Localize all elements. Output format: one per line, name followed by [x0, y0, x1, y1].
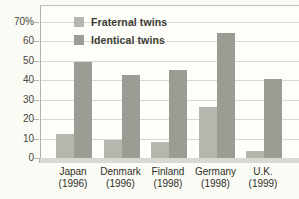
y-tick-mark-0: [34, 158, 39, 159]
y-tick-label-10: 10: [0, 133, 34, 145]
y-tick-mark-20: [34, 119, 39, 120]
y-tick-mark-40: [34, 80, 39, 81]
y-tick-label-30: 30: [0, 94, 34, 106]
legend-label-identical: Identical twins: [91, 34, 165, 46]
y-tick-mark-70: [34, 22, 39, 23]
y-tick-mark-10: [34, 139, 39, 140]
bar-germany-fraternal: [199, 107, 217, 162]
y-tick-label-50: 50: [0, 55, 34, 67]
y-tick-label-20: 20: [0, 113, 34, 125]
bar-japan-identical: [74, 62, 92, 162]
y-axis-line: [39, 158, 40, 163]
fraternal-twins-swatch: [74, 17, 84, 27]
x-label-uk: U.K.(1999): [231, 166, 295, 190]
legend-item-identical: Identical twins: [74, 32, 167, 48]
legend: Fraternal twins Identical twins: [74, 14, 167, 50]
bar-germany-identical: [217, 33, 235, 162]
bar-finland-identical: [169, 70, 187, 162]
y-tick-mark-30: [34, 100, 39, 101]
bar-denmark-identical: [122, 75, 140, 162]
x-label-country: U.K.: [231, 166, 295, 178]
twins-bar-chart: 010203040506070% Fraternal twins Identic…: [0, 0, 299, 199]
legend-label-fraternal: Fraternal twins: [91, 16, 167, 28]
y-tick-mark-60: [34, 41, 39, 42]
y-tick-label-40: 40: [0, 74, 34, 86]
x-axis-baseline: [40, 158, 299, 163]
y-tick-mark-50: [34, 61, 39, 62]
x-label-year: (1999): [231, 178, 295, 190]
legend-item-fraternal: Fraternal twins: [74, 14, 167, 30]
y-tick-label-60: 60: [0, 35, 34, 47]
y-tick-label-0: 0: [0, 152, 34, 164]
identical-twins-swatch: [74, 35, 84, 45]
y-tick-label-70: 70%: [0, 16, 34, 28]
bar-uk-identical: [264, 79, 282, 162]
